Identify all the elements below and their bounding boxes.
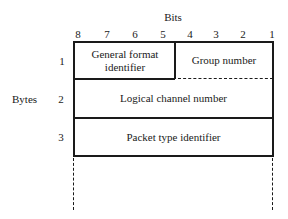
bit-number: 2 (240, 28, 246, 40)
field-group-number: Group number (176, 44, 272, 76)
bit-number: 8 (75, 28, 81, 40)
frame-right-border (272, 41, 274, 157)
bit-number: 4 (187, 28, 193, 40)
group-number-dashed-border (178, 78, 273, 79)
bit-number: 1 (269, 28, 275, 40)
byte-number: 1 (59, 55, 65, 67)
byte-number: 3 (58, 131, 64, 143)
row3-bottom-border (73, 155, 274, 157)
field-logical-channel-number: Logical channel number (75, 80, 272, 117)
bit-number: 3 (213, 28, 219, 40)
continuation-left-dashed (73, 158, 74, 210)
bit-number: 7 (104, 28, 110, 40)
byte-number: 2 (58, 93, 64, 105)
field-general-format-identifier: General format identifier (78, 44, 172, 78)
bits-axis-label: Bits (164, 11, 182, 23)
bit-number: 5 (160, 28, 166, 40)
bytes-axis-label: Bytes (12, 93, 37, 105)
bit-number: 6 (132, 28, 138, 40)
continuation-right-dashed (272, 158, 273, 210)
field-packet-type-identifier: Packet type identifier (75, 119, 272, 155)
